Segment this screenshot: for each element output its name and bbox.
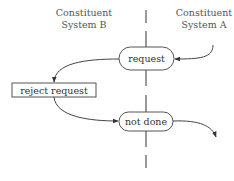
- svg-text:Constituent: Constituent: [56, 7, 113, 18]
- lane-label-system-b: Constituent System B: [56, 7, 113, 30]
- edge-system-a-to-request: [175, 45, 213, 59]
- diagram-svg: Constituent System B Constituent System …: [0, 0, 234, 181]
- lane-label-system-a: Constituent System A: [176, 7, 233, 30]
- node-not-done: not done: [119, 112, 173, 131]
- svg-text:System B: System B: [61, 19, 106, 30]
- node-reject-request: reject request: [12, 83, 96, 97]
- edge-reject-to-not-done: [54, 97, 118, 121]
- svg-text:Constituent: Constituent: [176, 7, 233, 18]
- svg-text:not done: not done: [125, 116, 168, 127]
- svg-text:request: request: [128, 53, 165, 64]
- svg-text:reject request: reject request: [20, 85, 88, 96]
- edge-not-done-out: [173, 121, 216, 137]
- node-request: request: [119, 47, 174, 70]
- svg-text:System A: System A: [181, 19, 226, 30]
- edge-request-to-reject: [54, 59, 119, 82]
- diagram-canvas: Constituent System B Constituent System …: [0, 0, 234, 181]
